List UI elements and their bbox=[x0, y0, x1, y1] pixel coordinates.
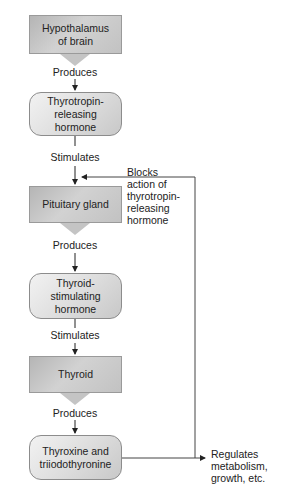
feedback-line1: Blocks bbox=[127, 166, 180, 178]
feedback-line5: hormone bbox=[127, 214, 180, 226]
output-line3: growth, etc. bbox=[211, 472, 268, 484]
node-hypothalamus-line1: Hypothalamus bbox=[42, 22, 109, 35]
node-thyroid-pointer bbox=[60, 393, 90, 405]
feedback-line4: releasing bbox=[127, 202, 180, 214]
edge-label-produces-3: Produces bbox=[40, 407, 110, 420]
node-tsh: Thyroid- stimulating hormone bbox=[29, 273, 122, 319]
node-t3t4: Thyroxine and triiodothyronine bbox=[29, 435, 122, 480]
output-line2: metabolism, bbox=[211, 460, 268, 472]
feedback-label: Blocks action of thyrotropin- releasing … bbox=[127, 166, 180, 226]
node-thyroid-line1: Thyroid bbox=[58, 368, 93, 381]
node-trh: Thyrotropin- releasing hormone bbox=[29, 92, 122, 136]
edge-label-stimulates-2: Stimulates bbox=[40, 329, 110, 342]
node-thyroid: Thyroid bbox=[29, 356, 122, 393]
node-hypothalamus: Hypothalamus of brain bbox=[29, 15, 122, 54]
node-trh-line2: releasing bbox=[47, 108, 104, 121]
node-t3t4-line2: triiodothyronine bbox=[40, 458, 112, 471]
node-tsh-line2: stimulating bbox=[50, 290, 100, 303]
edge-label-produces-1: Produces bbox=[40, 66, 110, 79]
node-tsh-line1: Thyroid- bbox=[50, 277, 100, 290]
node-tsh-line3: hormone bbox=[50, 303, 100, 316]
node-trh-line3: hormone bbox=[47, 121, 104, 134]
edge-label-stimulates-1: Stimulates bbox=[40, 151, 110, 164]
node-pituitary-line1: Pituitary gland bbox=[42, 198, 109, 211]
node-pituitary: Pituitary gland bbox=[29, 186, 122, 223]
node-t3t4-line1: Thyroxine and bbox=[40, 445, 112, 458]
edge-label-produces-2: Produces bbox=[40, 239, 110, 252]
output-line1: Regulates bbox=[211, 448, 268, 460]
node-hypothalamus-line2: of brain bbox=[42, 35, 109, 48]
node-trh-line1: Thyrotropin- bbox=[47, 95, 104, 108]
node-pituitary-pointer bbox=[60, 223, 90, 235]
node-hypothalamus-pointer bbox=[60, 54, 90, 66]
feedback-line3: thyrotropin- bbox=[127, 190, 180, 202]
feedback-line2: action of bbox=[127, 178, 180, 190]
output-label: Regulates metabolism, growth, etc. bbox=[211, 448, 268, 484]
